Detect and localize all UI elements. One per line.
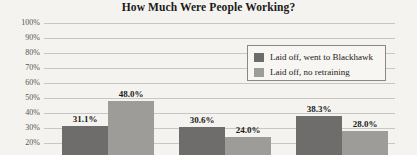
bar[interactable] <box>225 137 271 155</box>
gridline <box>44 38 395 39</box>
gridline <box>44 98 395 99</box>
y-axis-tick-label: 80% <box>0 48 40 57</box>
y-axis-tick-label: 40% <box>0 108 40 117</box>
legend-item-label: Laid off, no retraining <box>270 67 350 77</box>
y-axis-tick-label: 70% <box>0 63 40 72</box>
y-axis-tick-label: 30% <box>0 123 40 132</box>
chart-page: How Much Were People Working? 100%90%80%… <box>0 0 417 155</box>
bar[interactable] <box>62 126 108 155</box>
y-axis-tick-label: 50% <box>0 93 40 102</box>
legend-item-label: Laid off, went to Blackhawk <box>270 52 373 62</box>
y-axis-tick-label: 100% <box>0 18 40 27</box>
bar-value-label: 31.1% <box>56 114 114 124</box>
bar-value-label: 24.0% <box>219 125 277 135</box>
gridline <box>44 23 395 24</box>
gridline <box>44 83 395 84</box>
bar-value-label: 28.0% <box>336 119 394 129</box>
legend-item[interactable]: Laid off, went to Blackhawk <box>254 52 373 62</box>
bar[interactable] <box>108 101 154 155</box>
y-axis-tick-label: 20% <box>0 138 40 147</box>
legend-item[interactable]: Laid off, no retraining <box>254 67 350 77</box>
page-title: How Much Were People Working? <box>0 1 417 13</box>
bar-value-label: 48.0% <box>102 89 160 99</box>
bar-value-label: 38.3% <box>290 104 348 114</box>
y-axis-tick-label: 60% <box>0 78 40 87</box>
bar-value-label: 30.6% <box>173 115 231 125</box>
y-axis-tick-label: 90% <box>0 33 40 42</box>
legend-swatch-icon <box>254 53 264 62</box>
bar[interactable] <box>342 131 388 155</box>
legend: Laid off, went to BlackhawkLaid off, no … <box>247 45 386 81</box>
plot-area: 100%90%80%70%60%50%40%30%20% 31.1%30.6%3… <box>44 23 395 155</box>
legend-swatch-icon <box>254 68 264 77</box>
